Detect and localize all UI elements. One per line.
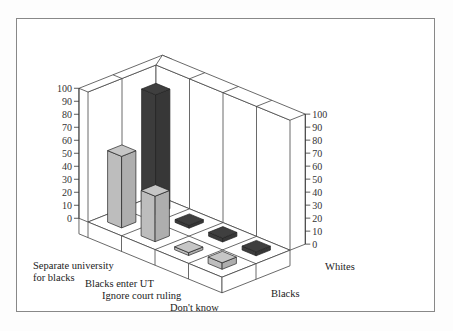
left-tick-label: 10: [62, 200, 72, 211]
right-tick-label: 10: [312, 226, 322, 237]
left-tick-label: 50: [62, 148, 72, 159]
left-tick-label: 60: [62, 135, 72, 146]
bar-chart-3d: 0102030405060708090100 01020304050607080…: [0, 0, 453, 331]
right-tick-label: 100: [312, 109, 327, 120]
right-tick-label: 20: [312, 213, 322, 224]
right-tick-label: 90: [312, 122, 322, 133]
bar-blacks-0: [108, 145, 136, 228]
left-tick-label: 0: [67, 213, 72, 224]
category-label-dont-know: Don't know: [170, 302, 219, 313]
right-tick-label: 40: [312, 187, 322, 198]
right-tick-label: 0: [312, 239, 317, 250]
series-label-blacks: Blacks: [271, 288, 300, 299]
right-y-axis: 0102030405060708090100: [305, 109, 327, 250]
category-label-separate-1: Separate university: [33, 260, 115, 271]
right-tick-label: 50: [312, 174, 322, 185]
right-tick-label: 70: [312, 148, 322, 159]
right-tick-label: 30: [312, 200, 322, 211]
left-tick-label: 100: [57, 83, 72, 94]
left-tick-label: 40: [62, 161, 72, 172]
left-y-axis: 0102030405060708090100: [57, 83, 79, 224]
series-label-whites: Whites: [325, 261, 355, 272]
left-tick-label: 30: [62, 174, 72, 185]
left-tick-label: 90: [62, 96, 72, 107]
category-label-ignore: Ignore court ruling: [102, 290, 182, 301]
bar-blacks-1: [141, 185, 169, 242]
left-tick-label: 70: [62, 122, 72, 133]
category-label-enter-ut: Blacks enter UT: [85, 278, 154, 289]
right-tick-label: 60: [312, 161, 322, 172]
right-tick-label: 80: [312, 135, 322, 146]
category-label-separate-2: for blacks: [33, 272, 75, 283]
left-tick-label: 20: [62, 187, 72, 198]
left-tick-label: 80: [62, 109, 72, 120]
